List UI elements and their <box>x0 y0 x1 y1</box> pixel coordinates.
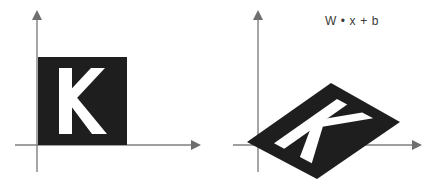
linear-transform-figure: W • x + b <box>0 0 438 188</box>
output-panel: W • x + b <box>219 0 438 188</box>
y-axis-arrowhead <box>32 10 42 20</box>
input-panel <box>0 0 219 188</box>
y-axis-arrowhead <box>253 10 263 20</box>
x-axis-arrowhead <box>191 140 201 150</box>
output-panel-canvas <box>219 0 438 188</box>
input-panel-canvas <box>0 0 219 188</box>
source-square-shape <box>38 57 127 145</box>
transform-formula-label: W • x + b <box>325 14 379 28</box>
transformed-parallelogram-shape <box>247 83 400 179</box>
x-axis-arrowhead <box>412 140 422 150</box>
